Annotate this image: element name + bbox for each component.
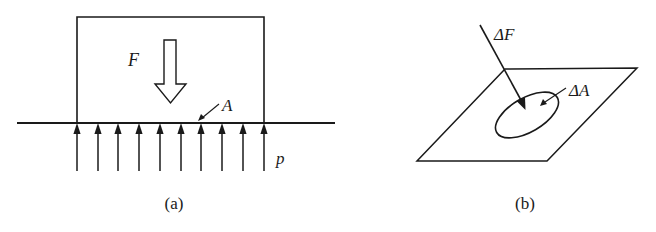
pressure-arrow-icon [73,123,80,171]
force-label: F [127,50,140,70]
delta-force-label: ΔF [493,25,515,44]
caption-b: (b) [515,194,535,213]
figure-canvas: F A p (a) ΔF [0,0,656,232]
plane-outline [417,68,637,161]
pressure-arrow-icon [114,123,121,171]
figure-a: F A p (a) [17,17,335,213]
pressure-arrow-icon [197,123,204,171]
delta-force-arrowhead-icon [517,97,526,110]
figure-b: ΔF ΔA (b) [417,25,637,213]
area-label: A [221,96,233,115]
caption-a: (a) [165,194,184,213]
pressure-arrow-icon [135,123,142,171]
delta-area-pointer-head-icon [540,99,547,106]
delta-area-label: ΔA [568,81,590,100]
pressure-label: p [275,149,285,168]
force-arrow-icon [155,40,186,103]
pressure-arrow-icon [239,123,246,171]
pressure-arrows [73,123,267,171]
small-area-ellipse [488,83,566,147]
pressure-arrow-icon [218,123,225,171]
area-pointer-head-icon [198,114,205,121]
pressure-arrow-icon [260,123,267,171]
pressure-arrow-icon [177,123,184,171]
delta-area-pointer-icon [545,88,566,102]
pressure-arrow-icon [156,123,163,171]
pressure-arrow-icon [94,123,101,171]
area-pointer-icon [202,104,219,118]
